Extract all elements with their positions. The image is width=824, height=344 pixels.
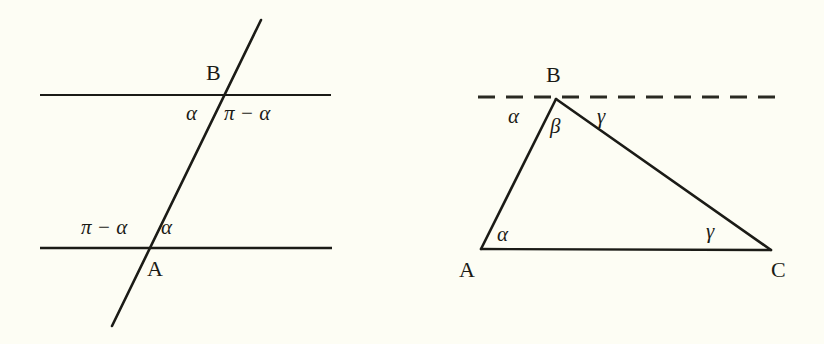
panel-triangle-angle-sum — [478, 97, 779, 250]
angle-label-A-right: α — [161, 217, 172, 238]
point-label-B: B — [206, 62, 221, 84]
angle-label-A-left: π − α — [81, 217, 127, 238]
angle-label-alpha-at-A: α — [497, 224, 508, 245]
angle-label-gamma-at-B: γ — [597, 106, 605, 127]
triangle-side-BC — [556, 99, 771, 250]
triangle-side-AC — [481, 249, 771, 250]
angle-label-B-left: α — [186, 103, 197, 124]
geometry-figure: B A α π − α π − α α B A C α β γ α γ — [0, 0, 824, 344]
angle-label-gamma-at-C: γ — [706, 221, 714, 242]
figure-canvas — [0, 0, 824, 344]
transversal-line — [112, 20, 261, 326]
panel-parallel-lines-transversal — [40, 20, 332, 326]
angle-label-beta-at-B: β — [550, 116, 560, 137]
point-label-A: A — [147, 258, 163, 280]
angle-label-alpha-at-B: α — [508, 106, 519, 127]
vertex-label-C: C — [771, 259, 786, 281]
vertex-label-A: A — [459, 259, 475, 281]
angle-label-B-right: π − α — [224, 103, 270, 124]
vertex-label-B: B — [546, 64, 561, 86]
